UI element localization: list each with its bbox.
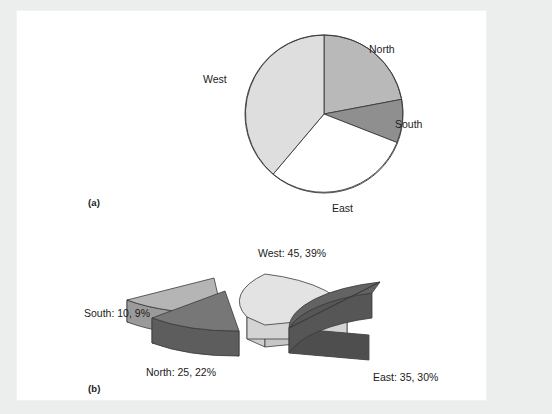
pie-b-label-south: South: 10, 9% <box>84 307 150 319</box>
pie-b-label-north: North: 25, 22% <box>146 366 216 378</box>
pie-a-label-west: West <box>203 73 227 85</box>
figure-canvas: North South East West (a) <box>17 11 486 400</box>
pie-b-label-east: East: 35, 30% <box>373 371 438 383</box>
chart-a-flat-pie: North South East West <box>17 11 486 225</box>
pie-a-label-north: North <box>369 43 395 55</box>
pie-b-label-west: West: 45, 39% <box>258 247 326 259</box>
pie-a-label-south: South <box>395 118 422 130</box>
chart-b-3d-exploded-pie: West: 45, 39% South: 10, 9% North: 25, 2… <box>17 225 486 400</box>
pie-a-label-east: East <box>332 202 353 214</box>
panel-label-b: (b) <box>88 383 101 394</box>
panel-label-a: (a) <box>88 197 100 208</box>
